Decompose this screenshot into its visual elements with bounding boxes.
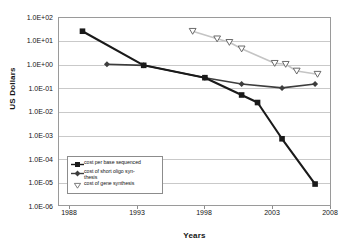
x-tick-label: 2008 [310, 209, 345, 216]
legend-item-cost-of-short-oligo-synthesis: cost of short oligo syn-thesis [71, 169, 159, 180]
diamond-marker [104, 61, 110, 67]
y-tick-label: 1.0E+02 [3, 14, 53, 21]
square-marker-icon [71, 161, 84, 168]
triangle-down-marker [238, 46, 245, 52]
series-line [107, 64, 315, 88]
y-tick-label: 1.0E-04 [3, 156, 53, 163]
legend-label: cost of gene synthesis [84, 181, 134, 187]
legend-item-cost-per-base-sequenced: cost per base sequenced [71, 160, 159, 168]
chart-legend: cost per base sequenced cost of short ol… [67, 156, 163, 194]
y-tick-label: 1.0E-03 [3, 132, 53, 139]
square-marker [80, 28, 86, 34]
chart-figure: US Dollars Years 1.0E+02 1.0E+01 1.0E+00… [0, 0, 345, 250]
y-tick-label: 1.0E-05 [3, 179, 53, 186]
diamond-marker [239, 81, 245, 87]
square-marker [202, 75, 208, 81]
y-tick-label: 1.0E-01 [3, 85, 53, 92]
x-tick-label: 1998 [184, 209, 224, 216]
square-marker [255, 100, 261, 106]
diamond-marker [312, 81, 318, 87]
x-tick-label: 1993 [117, 209, 157, 216]
square-marker [312, 181, 318, 187]
diamond-marker [279, 85, 285, 91]
x-tick-label: 1988 [49, 209, 89, 216]
legend-label: cost of short oligo syn-thesis [84, 169, 135, 180]
x-axis-title: Years [58, 231, 331, 240]
square-marker [141, 63, 147, 69]
series-cost-of-gene-synthesis [189, 28, 321, 77]
legend-item-cost-of-gene-synthesis: cost of gene synthesis [71, 181, 159, 189]
legend-label-line2: thesis [84, 174, 97, 180]
legend-label: cost per base sequenced [84, 160, 141, 166]
square-marker [279, 136, 285, 142]
y-tick-label: 1.0E+01 [3, 37, 53, 44]
triangle-down-marker-icon [71, 182, 84, 189]
square-marker [239, 92, 245, 98]
y-tick-label: 1.0E-02 [3, 108, 53, 115]
x-tick-label: 2003 [252, 209, 292, 216]
y-tick-label: 1.0E+00 [3, 61, 53, 68]
y-tick-label: 1.0E-06 [3, 203, 53, 210]
diamond-marker-icon [71, 170, 84, 177]
